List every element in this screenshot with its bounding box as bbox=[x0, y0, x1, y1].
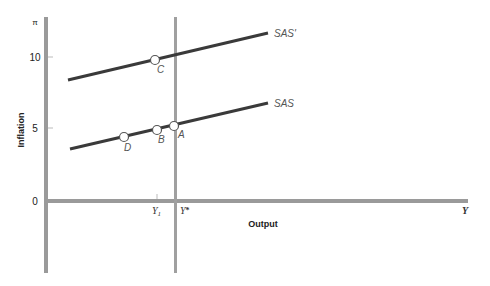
sas-label: SAS bbox=[274, 98, 294, 109]
point-d-label: D bbox=[124, 142, 131, 153]
tick-label-10: 10 bbox=[29, 52, 41, 63]
inflation-axis bbox=[44, 17, 48, 273]
y1-label: Y1 bbox=[152, 205, 161, 218]
point-b-label: B bbox=[158, 134, 165, 145]
y1-subscript: 1 bbox=[158, 210, 162, 218]
pi-symbol: π bbox=[32, 18, 38, 27]
ystar-label: Y* bbox=[180, 205, 190, 216]
inflation-axis-title: Inflation bbox=[16, 113, 26, 148]
sas-prime-label: SAS' bbox=[274, 28, 297, 39]
point-c-label: C bbox=[157, 64, 165, 75]
tick-label-5: 5 bbox=[32, 123, 38, 134]
point-d bbox=[120, 133, 129, 142]
output-symbol: Y bbox=[462, 205, 469, 216]
tick-label-0: 0 bbox=[32, 196, 38, 207]
point-a-label: A bbox=[177, 129, 185, 140]
output-axis-title: Output bbox=[248, 219, 278, 229]
sas-prime-curve bbox=[68, 33, 268, 80]
output-axis bbox=[44, 199, 468, 203]
sas-diagram: π 10 5 0 Inflation SAS' SAS C A B D Y1 Y… bbox=[0, 0, 490, 286]
ystar-superscript: * bbox=[186, 206, 190, 215]
